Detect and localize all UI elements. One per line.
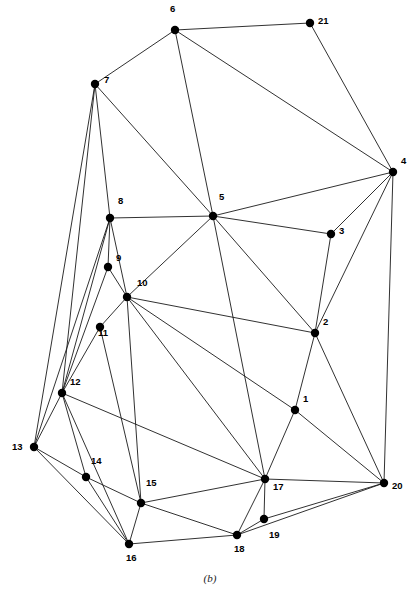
- graph-edge: [384, 172, 393, 483]
- graph-edge: [213, 216, 265, 479]
- graph-edge: [213, 216, 315, 333]
- graph-vertex-label-6: 6: [170, 4, 175, 14]
- graph-edge: [127, 297, 315, 333]
- graph-edge: [100, 297, 127, 327]
- graph-vertex-label-18: 18: [234, 544, 245, 554]
- graph-vertex-7[interactable]: [91, 80, 99, 88]
- graph-vertex-label-7: 7: [104, 75, 109, 85]
- graph-vertex-12[interactable]: [58, 389, 66, 397]
- graph-vertex-label-19: 19: [269, 530, 280, 540]
- graph-edge: [264, 479, 265, 519]
- graph-figure: 123456789101112131415161718192021 (b): [0, 0, 420, 601]
- graph-vertex-label-11: 11: [98, 328, 108, 338]
- graph-vertex-label-17: 17: [273, 482, 284, 492]
- graph-edge: [295, 410, 384, 483]
- graph-vertex-label-14: 14: [91, 456, 102, 466]
- graph-vertex-4[interactable]: [389, 168, 397, 176]
- graph-vertex-10[interactable]: [123, 293, 131, 301]
- graph-edge: [175, 23, 310, 30]
- graph-vertex-13[interactable]: [30, 443, 38, 451]
- graph-vertex-label-1: 1: [303, 394, 308, 404]
- graph-vertex-label-21: 21: [318, 16, 329, 26]
- graph-edge: [265, 410, 295, 479]
- graph-vertex-3[interactable]: [327, 230, 335, 238]
- figure-caption: (b): [0, 572, 420, 584]
- graph-edge: [127, 297, 295, 410]
- graph-vertex-14[interactable]: [82, 473, 90, 481]
- graph-vertex-20[interactable]: [380, 479, 388, 487]
- graph-edge: [175, 30, 213, 216]
- graph-vertex-21[interactable]: [306, 19, 314, 27]
- graph-vertex-label-16: 16: [126, 553, 137, 563]
- graph-edge: [110, 216, 213, 218]
- graph-vertex-15[interactable]: [137, 499, 145, 507]
- graph-vertex-1[interactable]: [291, 406, 299, 414]
- graph-vertex-label-3: 3: [339, 226, 344, 236]
- graph-edge: [95, 84, 213, 216]
- graph-vertex-18[interactable]: [233, 531, 241, 539]
- graph-vertex-label-4: 4: [401, 156, 406, 166]
- graph-edge: [34, 447, 86, 477]
- graph-edge: [175, 30, 393, 172]
- graph-vertex-label-13: 13: [12, 442, 23, 452]
- graph-edge: [141, 479, 265, 503]
- graph-edge: [129, 535, 237, 544]
- graph-vertex-17[interactable]: [261, 475, 269, 483]
- graph-vertex-5[interactable]: [209, 212, 217, 220]
- graph-edge: [213, 216, 331, 234]
- graph-vertex-label-8: 8: [118, 196, 123, 206]
- graph-vertex-label-20: 20: [392, 481, 403, 491]
- graph-edge: [141, 503, 237, 535]
- graph-edge: [127, 297, 265, 479]
- graph-edge: [62, 393, 265, 479]
- graph-vertex-label-12: 12: [70, 377, 81, 387]
- graph-edge: [62, 218, 110, 393]
- graph-vertex-label-2: 2: [323, 317, 328, 327]
- graph-vertex-19[interactable]: [260, 515, 268, 523]
- graph-edge: [315, 333, 384, 483]
- graph-vertex-8[interactable]: [106, 214, 114, 222]
- graph-vertex-9[interactable]: [104, 263, 112, 271]
- graph-vertex-6[interactable]: [171, 26, 179, 34]
- graph-edge: [129, 503, 141, 544]
- graph-vertex-label-5: 5: [219, 192, 224, 202]
- graph-vertex-label-15: 15: [146, 478, 157, 488]
- graph-canvas: [0, 0, 420, 601]
- vertex-layer: [30, 19, 397, 548]
- graph-edge: [315, 172, 393, 333]
- edge-layer: [34, 23, 393, 544]
- graph-edge: [62, 393, 86, 477]
- graph-vertex-label-9: 9: [116, 253, 121, 263]
- graph-vertex-2[interactable]: [311, 329, 319, 337]
- graph-edge: [95, 84, 110, 218]
- graph-edge: [310, 23, 393, 172]
- graph-vertex-label-10: 10: [137, 278, 148, 288]
- graph-vertex-16[interactable]: [125, 540, 133, 548]
- graph-edge: [213, 172, 393, 216]
